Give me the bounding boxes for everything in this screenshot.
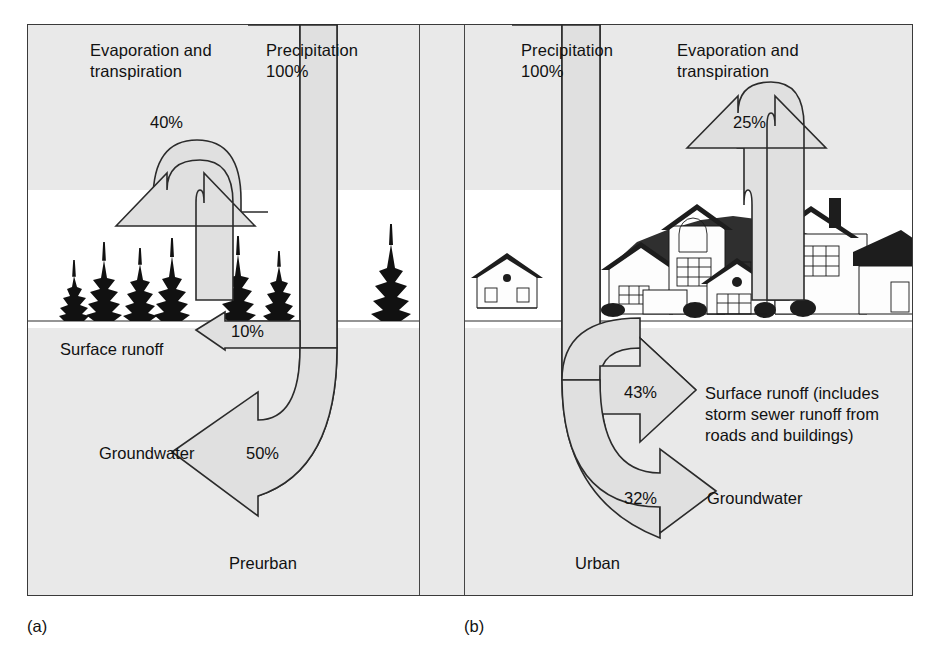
label-precipitation-title-a: Precipitation 100% xyxy=(266,40,358,82)
label-groundwater-a: Groundwater xyxy=(99,444,194,463)
value-groundwater-a: 50% xyxy=(246,444,279,463)
figure-root: Evaporation and transpiration Precipitat… xyxy=(0,0,932,656)
label-precipitation-title-b: Precipitation 100% xyxy=(521,40,613,82)
label-evaporation-title-b: Evaporation and transpiration xyxy=(677,40,799,82)
label-surface-runoff-a: Surface runoff xyxy=(60,340,163,359)
forest-scene xyxy=(28,190,419,328)
panel-divider-left-inner xyxy=(419,25,420,595)
suburban-scene xyxy=(465,190,912,328)
value-groundwater-b: 32% xyxy=(624,489,657,508)
illustration-band-urban xyxy=(465,190,912,328)
label-scenario-b: Urban xyxy=(575,554,620,573)
value-evaporation-a: 40% xyxy=(150,113,183,132)
label-scenario-a: Preurban xyxy=(229,554,297,573)
value-surface-runoff-b: 43% xyxy=(624,383,657,402)
small-house-icon xyxy=(471,253,543,308)
illustration-band-preurban xyxy=(28,190,419,328)
value-surface-runoff-a: 10% xyxy=(231,322,264,341)
tree-cluster-icon xyxy=(59,224,411,321)
suburban-houses-icon xyxy=(601,198,912,318)
label-evaporation-title-a: Evaporation and transpiration xyxy=(90,40,212,82)
value-evaporation-b: 25% xyxy=(733,113,766,132)
label-groundwater-b: Groundwater xyxy=(707,489,802,508)
label-surface-runoff-b: Surface runoff (includes storm sewer run… xyxy=(705,383,879,446)
figure-label-b: (b) xyxy=(464,617,484,636)
figure-label-a: (a) xyxy=(27,617,47,636)
